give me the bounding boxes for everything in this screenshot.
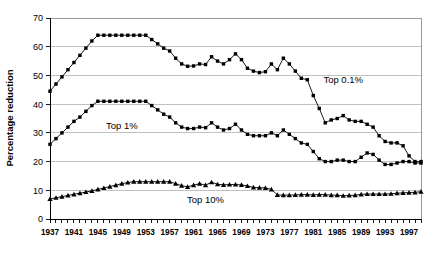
- y-axis-tick-label: 0: [38, 214, 43, 224]
- data-point-marker: [270, 62, 273, 65]
- data-point-marker: [48, 90, 51, 93]
- data-point-marker: [120, 100, 123, 103]
- x-axis-tick-label: 1949: [113, 228, 132, 237]
- data-point-marker: [156, 108, 159, 111]
- series-label: Top 1%: [106, 120, 138, 131]
- data-point-marker: [288, 133, 291, 136]
- chart-container: 010203040506070 193719411945194919531957…: [0, 0, 436, 257]
- data-point-marker: [138, 34, 141, 37]
- data-point-marker: [222, 128, 225, 131]
- data-point-marker: [174, 121, 177, 124]
- data-point-marker: [330, 118, 333, 121]
- data-point-marker: [336, 158, 339, 161]
- data-point-marker: [401, 160, 404, 163]
- data-point-marker: [120, 34, 123, 37]
- x-axis-tick-label: 1993: [376, 228, 395, 237]
- x-axis-tick-label: 1977: [280, 228, 299, 237]
- data-point-marker: [216, 59, 219, 62]
- x-axis-tick-label: 1945: [89, 228, 108, 237]
- y-axis-tick-label: 20: [33, 157, 43, 167]
- data-point-marker: [210, 121, 213, 124]
- series-label: Top 0.1%: [323, 74, 363, 85]
- data-point-marker: [401, 144, 404, 147]
- data-point-marker: [258, 134, 261, 137]
- data-point-marker: [228, 127, 231, 130]
- data-point-marker: [156, 42, 159, 45]
- data-point-marker: [413, 161, 416, 164]
- data-point-marker: [180, 62, 183, 65]
- data-point-marker: [407, 160, 410, 163]
- data-point-marker: [144, 100, 147, 103]
- x-axis-tick-label: 1965: [208, 228, 227, 237]
- data-point-marker: [108, 34, 111, 37]
- x-axis-tick-label: 1989: [352, 228, 371, 237]
- data-point-marker: [114, 34, 117, 37]
- x-axis-tick-label: 1981: [304, 228, 323, 237]
- data-point-marker: [359, 156, 362, 159]
- data-point-marker: [72, 61, 75, 64]
- y-axis-tick-label: 40: [33, 100, 43, 110]
- data-point-marker: [60, 75, 63, 78]
- y-axis-tick-label: 30: [33, 128, 43, 138]
- data-point-marker: [78, 54, 81, 57]
- data-point-marker: [168, 115, 171, 118]
- data-point-marker: [138, 100, 141, 103]
- data-point-marker: [342, 158, 345, 161]
- data-point-marker: [198, 125, 201, 128]
- data-point-marker: [48, 143, 51, 146]
- data-point-marker: [330, 160, 333, 163]
- data-point-marker: [132, 100, 135, 103]
- data-point-marker: [234, 52, 237, 55]
- data-point-marker: [252, 134, 255, 137]
- data-point-marker: [252, 69, 255, 72]
- y-axis-tick-label: 10: [33, 186, 43, 196]
- data-point-marker: [264, 134, 267, 137]
- data-point-marker: [240, 128, 243, 131]
- data-point-marker: [353, 120, 356, 123]
- data-point-marker: [282, 57, 285, 60]
- data-point-marker: [168, 49, 171, 52]
- data-point-marker: [312, 150, 315, 153]
- data-point-marker: [365, 151, 368, 154]
- x-axis-tick-label: 1997: [400, 228, 419, 237]
- data-point-marker: [318, 157, 321, 160]
- data-point-marker: [347, 118, 350, 121]
- data-point-marker: [186, 65, 189, 68]
- data-point-marker: [306, 143, 309, 146]
- data-point-marker: [276, 134, 279, 137]
- data-point-marker: [90, 39, 93, 42]
- data-point-marker: [371, 125, 374, 128]
- data-point-marker: [324, 121, 327, 124]
- data-point-marker: [294, 137, 297, 140]
- data-point-marker: [144, 34, 147, 37]
- y-axis-title: Percentage reduction: [4, 69, 15, 166]
- line-chart: 010203040506070 193719411945194919531957…: [0, 0, 436, 257]
- data-point-marker: [282, 128, 285, 131]
- data-point-marker: [294, 69, 297, 72]
- data-point-marker: [54, 82, 57, 85]
- data-point-marker: [72, 120, 75, 123]
- x-axis-tick-label: 1969: [232, 228, 251, 237]
- data-point-marker: [96, 34, 99, 37]
- y-axis-tick-label: 50: [33, 71, 43, 81]
- data-point-marker: [204, 126, 207, 129]
- data-point-marker: [300, 77, 303, 80]
- data-point-marker: [228, 58, 231, 61]
- data-point-marker: [108, 100, 111, 103]
- data-point-marker: [150, 38, 153, 41]
- data-point-marker: [180, 125, 183, 128]
- data-point-marker: [395, 141, 398, 144]
- data-point-marker: [395, 161, 398, 164]
- data-point-marker: [359, 120, 362, 123]
- data-point-marker: [246, 133, 249, 136]
- data-point-marker: [162, 112, 165, 115]
- data-point-marker: [383, 163, 386, 166]
- data-point-marker: [90, 104, 93, 107]
- data-point-marker: [150, 104, 153, 107]
- data-point-marker: [306, 78, 309, 81]
- data-point-marker: [324, 160, 327, 163]
- data-point-marker: [66, 68, 69, 71]
- data-point-marker: [336, 117, 339, 120]
- data-point-marker: [204, 63, 207, 66]
- x-axis-tick-label: 1985: [328, 228, 347, 237]
